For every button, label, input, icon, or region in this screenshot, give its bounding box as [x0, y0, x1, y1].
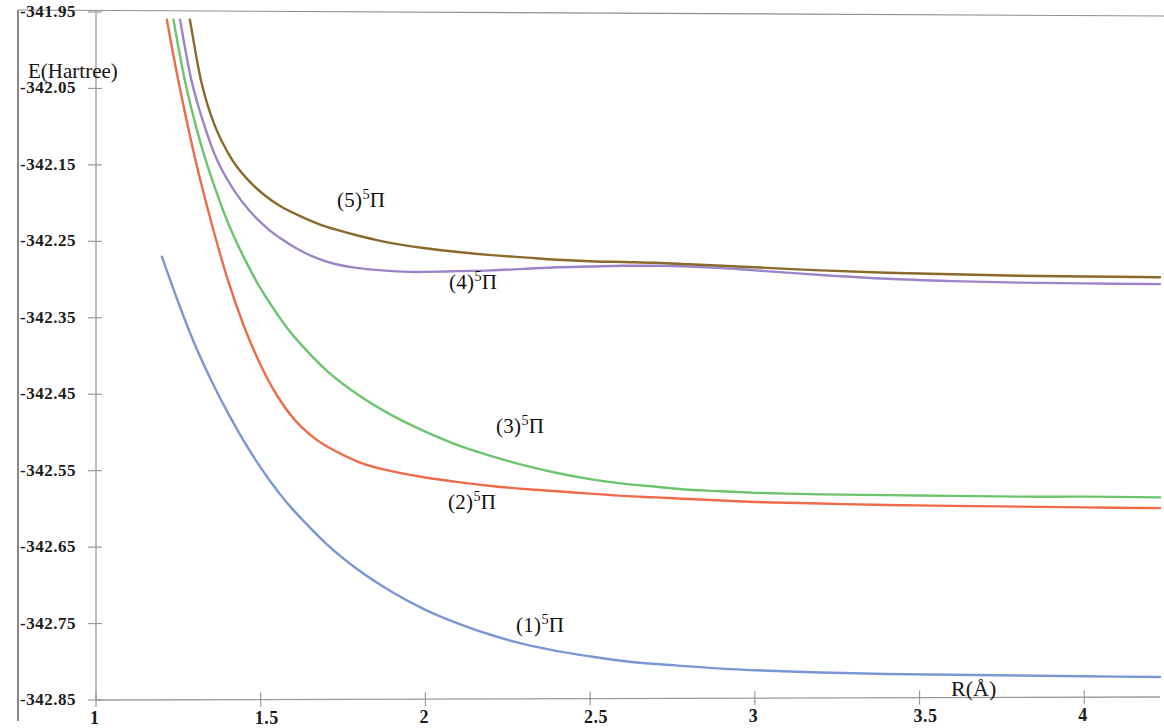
curve-(4)5pi — [180, 20, 1160, 285]
y-tick-label: -342.65 — [20, 537, 76, 557]
y-tick-label: -341.95 — [20, 2, 76, 22]
y-tick-label: -342.85 — [20, 690, 76, 710]
x-tick-label: 3.5 — [914, 706, 938, 727]
x-tick-label: 3 — [749, 706, 759, 727]
curve-label-4: (2)5Π — [448, 490, 496, 515]
curve-(5)5pi — [190, 20, 1160, 278]
x-tick-label: 1.5 — [255, 708, 279, 728]
curve-(1)5pi — [162, 257, 1160, 677]
curve-label-5: (1)5Π — [516, 613, 564, 638]
x-axis-ticks — [96, 690, 1084, 707]
y-tick-label: -342.55 — [20, 461, 76, 481]
curve-label-2: (4)5Π — [449, 270, 497, 295]
curve-(3)5pi — [173, 20, 1160, 498]
x-tick-label: 2.5 — [584, 707, 608, 728]
x-tick-label: 4 — [1078, 705, 1088, 726]
x-tick-label: 1 — [90, 708, 100, 728]
x-axis-line — [96, 697, 1160, 700]
x-tick-label: 2 — [419, 707, 429, 728]
curve-label-3: (3)5Π — [496, 414, 544, 439]
x-axis-title: R(Å) — [951, 676, 996, 702]
y-tick-label: -342.15 — [20, 155, 76, 175]
y-axis-ticks — [88, 12, 102, 700]
y-tick-label: -342.35 — [20, 308, 76, 328]
y-axis-title: E(Hartree) — [28, 59, 118, 84]
data-curves — [162, 20, 1160, 677]
y-tick-label: -342.25 — [20, 231, 76, 251]
frame-top-border — [18, 10, 1164, 16]
y-tick-label: -342.45 — [20, 384, 76, 404]
curve-label-1: (5)5Π — [337, 188, 385, 213]
y-tick-label: -342.75 — [20, 614, 76, 634]
